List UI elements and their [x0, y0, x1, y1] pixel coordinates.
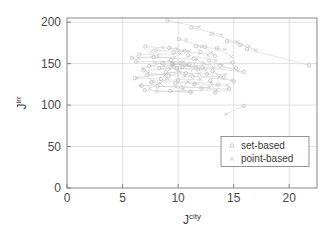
- connector-line: [247, 49, 309, 65]
- x-tick-label: 15: [227, 191, 241, 205]
- data-point-cross: [220, 33, 223, 36]
- scatter-plot: 05101520050100150200JcityJirrset-basedpo…: [0, 0, 335, 233]
- x-tick-label: 0: [64, 191, 71, 205]
- y-axis-title-superscript: irr: [14, 96, 23, 103]
- axis-ticks: 05101520050100150200: [41, 15, 296, 205]
- data-point-cross: [224, 112, 227, 115]
- data-point-cross: [162, 64, 165, 67]
- x-tick-label: 20: [283, 191, 297, 205]
- connector-line: [179, 39, 201, 46]
- connector-line: [144, 69, 170, 70]
- data-point-cross: [210, 51, 213, 54]
- y-tick-label: 100: [41, 98, 61, 112]
- data-point-circle: [190, 26, 193, 29]
- data-point-cross: [150, 50, 153, 53]
- legend-label: set-based: [241, 140, 285, 151]
- connector-line: [226, 106, 244, 114]
- y-tick-label: 0: [54, 181, 61, 195]
- connector-line: [195, 84, 227, 85]
- y-tick-label: 150: [41, 57, 61, 71]
- connector-line: [183, 52, 200, 89]
- data-point-cross: [236, 69, 239, 72]
- connector-line: [168, 20, 200, 27]
- x-tick-label: 10: [171, 191, 185, 205]
- connector-line: [137, 78, 161, 79]
- data-point-cross: [230, 55, 233, 58]
- y-axis-title: Jirr: [14, 96, 29, 109]
- y-tick-label: 200: [41, 15, 61, 29]
- data-point-cross: [254, 48, 257, 51]
- series-point-based: [135, 25, 257, 115]
- connector-line: [227, 41, 249, 46]
- data-point-cross: [148, 87, 151, 90]
- connector-line: [191, 28, 221, 35]
- y-tick-label: 50: [48, 140, 62, 154]
- figure-container: 05101520050100150200JcityJirrset-basedpo…: [0, 0, 335, 233]
- legend-label: point-based: [241, 153, 293, 164]
- x-tick-label: 5: [119, 191, 126, 205]
- connector-line: [215, 89, 229, 93]
- legend: set-basedpoint-based: [221, 137, 309, 167]
- connector-line: [211, 34, 237, 42]
- x-axis-title: Jcity: [183, 212, 201, 227]
- x-axis-title-superscript: city: [189, 212, 201, 221]
